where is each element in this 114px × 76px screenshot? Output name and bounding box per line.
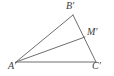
geometry-figure: A′ B′ M′ C′ bbox=[0, 0, 114, 76]
vertex-label-c: C′ bbox=[92, 61, 101, 71]
segment-side-AB bbox=[16, 15, 73, 62]
segment-cevian-AM bbox=[16, 37, 85, 62]
segment-side-BC bbox=[73, 15, 96, 62]
vertex-label-m: M′ bbox=[87, 27, 98, 37]
vertex-label-a: A′ bbox=[8, 61, 16, 71]
vertex-label-b: B′ bbox=[66, 1, 74, 11]
